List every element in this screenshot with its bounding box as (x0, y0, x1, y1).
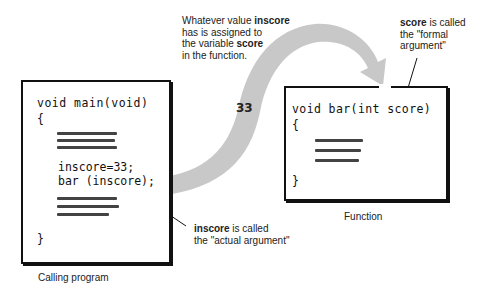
formal-note-line3: argument" (400, 40, 466, 52)
calling-program-caption: Calling program (38, 272, 109, 283)
code-placeholder-line (57, 197, 117, 200)
top-note-text3: the variable (182, 38, 236, 49)
formal-note-text: is called (427, 17, 466, 28)
code-placeholder-line (315, 159, 359, 162)
code-placeholder-line (315, 149, 361, 152)
function-box: void bar(int score) { } (284, 86, 448, 201)
actual-note-line2: the "actual argument" (194, 235, 290, 247)
top-note-line2: has is assigned to (182, 27, 290, 39)
top-note-bold-inscore: inscore (254, 15, 290, 26)
assign-statement: inscore=33; (58, 160, 134, 174)
formal-note-line2: the "formal (400, 29, 466, 41)
main-header: void main(void) (37, 96, 148, 110)
code-placeholder-line (57, 146, 117, 149)
formal-argument-note: score is called the "formal argument" (400, 17, 466, 52)
top-note-bold-score: score (236, 38, 263, 49)
function-open-brace: { (292, 118, 299, 132)
actual-note-bold: inscore (194, 223, 230, 234)
code-placeholder-line (57, 205, 119, 208)
top-note-text: Whatever value (182, 15, 254, 26)
formal-note-bold: score (400, 17, 427, 28)
code-placeholder-line (315, 139, 363, 142)
main-open-brace: { (37, 112, 44, 126)
arrow-entry-gap (379, 84, 391, 88)
actual-note-text: is called (230, 223, 269, 234)
flow-value-label: 33 (236, 101, 253, 115)
code-placeholder-line (57, 213, 109, 216)
function-caption: Function (344, 211, 382, 222)
top-note: Whatever value inscore has is assigned t… (182, 15, 290, 61)
actual-argument-note: inscore is called the "actual argument" (194, 223, 290, 246)
main-close-brace: } (37, 232, 44, 246)
code-placeholder-line (57, 139, 115, 142)
call-statement: bar (inscore); (58, 174, 155, 188)
calling-program-box: void main(void) { inscore=33; bar (insco… (21, 80, 171, 264)
top-note-line4: in the function. (182, 50, 290, 62)
code-placeholder-line (57, 132, 117, 135)
function-header: void bar(int score) (292, 102, 431, 116)
function-close-brace: } (292, 174, 299, 188)
